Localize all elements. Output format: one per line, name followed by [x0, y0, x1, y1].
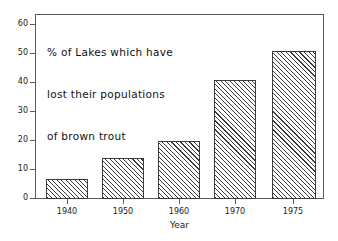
x-tick-mark — [67, 199, 68, 204]
x-tick-label: 1950 — [105, 207, 141, 217]
x-tick-mark — [123, 199, 124, 204]
chart-title: % of Lakes which have lost their populat… — [47, 17, 173, 171]
chart-title-line-2: lost their populations — [47, 87, 173, 101]
chart-title-line-1: % of Lakes which have — [47, 45, 173, 59]
x-tick-mark — [179, 199, 180, 204]
bar-1940[interactable] — [46, 179, 88, 199]
x-tick-mark — [293, 199, 294, 204]
bar-1970[interactable] — [214, 80, 256, 199]
x-tick-mark — [235, 199, 236, 204]
bar-1975[interactable] — [272, 51, 316, 199]
chart-title-line-3: of brown trout — [47, 129, 173, 143]
x-tick-label: 1940 — [49, 207, 85, 217]
x-tick-label: 1970 — [217, 207, 253, 217]
x-axis-title: Year — [35, 220, 324, 231]
x-tick-label: 1975 — [275, 207, 311, 217]
bar-chart: 0 10 20 30 40 50 60 — [0, 0, 338, 241]
x-tick-label: 1960 — [161, 207, 197, 217]
